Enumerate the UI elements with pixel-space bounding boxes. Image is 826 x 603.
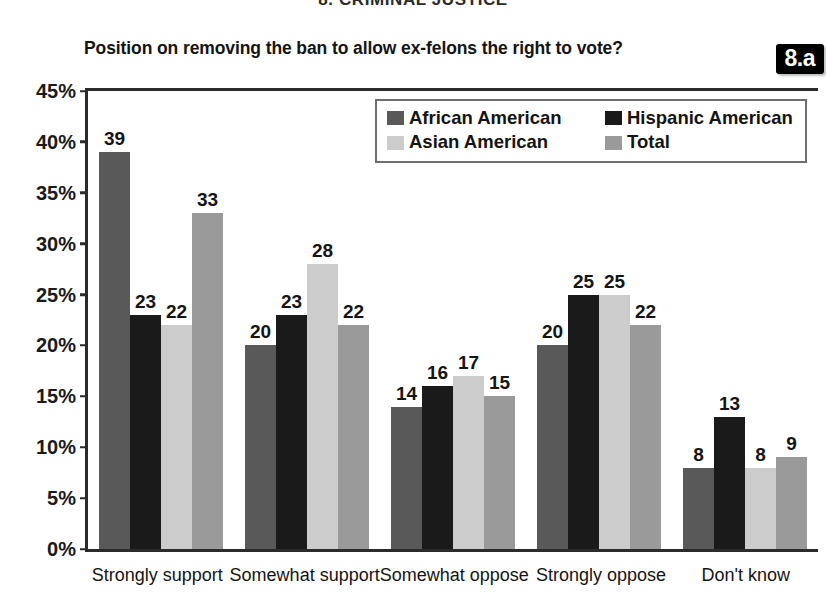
bar-value-label: 8	[755, 445, 766, 464]
y-axis-tick: 5%	[47, 487, 88, 510]
y-axis-tick: 35%	[36, 181, 88, 204]
bar[interactable]	[99, 152, 130, 549]
bar-value-label: 25	[604, 272, 625, 291]
y-axis-tick-mark	[80, 192, 88, 195]
bar[interactable]	[453, 376, 484, 549]
section-header: 8. CRIMINAL JUSTICE	[0, 0, 826, 10]
y-axis-tick-mark	[80, 242, 88, 245]
chart-page: 8. CRIMINAL JUSTICE Position on removing…	[0, 0, 826, 603]
bar[interactable]	[307, 264, 338, 549]
legend-label: African American	[409, 106, 562, 130]
bar-group: 20232822	[234, 91, 380, 549]
bar-column[interactable]: 23	[130, 91, 161, 549]
bar-value-label: 17	[458, 353, 479, 372]
y-axis-tick: 45%	[36, 80, 88, 103]
bar-value-label: 39	[104, 129, 125, 148]
bar-column[interactable]: 33	[192, 91, 223, 549]
y-axis-tick: 15%	[36, 385, 88, 408]
legend-label: Total	[627, 130, 670, 154]
bar-value-label: 22	[343, 302, 364, 321]
chart-title: Position on removing the ban to allow ex…	[84, 38, 623, 59]
bar[interactable]	[537, 345, 568, 549]
bar[interactable]	[391, 407, 422, 549]
legend-row: Asian American Total	[387, 130, 797, 154]
y-axis-tick: 0%	[47, 538, 88, 561]
bar-group: 39232233	[88, 91, 234, 549]
bar-value-label: 23	[281, 292, 302, 311]
legend-item-total: Total	[605, 130, 670, 154]
y-axis-tick-mark	[80, 293, 88, 296]
y-axis-tick: 20%	[36, 334, 88, 357]
y-axis-tick-mark	[80, 90, 88, 93]
y-axis-tick: 30%	[36, 232, 88, 255]
legend-swatch-icon	[605, 111, 622, 125]
bar-column[interactable]: 23	[276, 91, 307, 549]
bar-value-label: 25	[573, 272, 594, 291]
y-axis-tick-mark	[80, 395, 88, 398]
bar[interactable]	[276, 315, 307, 549]
bar[interactable]	[630, 325, 661, 549]
bar-value-label: 16	[427, 363, 448, 382]
bar[interactable]	[130, 315, 161, 549]
bar[interactable]	[714, 417, 745, 549]
bar[interactable]	[776, 457, 807, 549]
bar[interactable]	[599, 295, 630, 549]
bar-value-label: 13	[719, 394, 740, 413]
x-axis-label: Somewhat support	[230, 556, 380, 596]
x-axis-label: Strongly support	[85, 556, 230, 596]
bar-value-label: 14	[396, 384, 417, 403]
y-axis-tick: 25%	[36, 283, 88, 306]
bar[interactable]	[683, 468, 714, 549]
bar-value-label: 33	[197, 190, 218, 209]
y-axis-tick-mark	[80, 446, 88, 449]
bar-value-label: 28	[312, 241, 333, 260]
legend-item-african-american: African American	[387, 106, 605, 130]
bar-value-label: 22	[166, 302, 187, 321]
x-axis-label: Strongly oppose	[529, 556, 674, 596]
bar[interactable]	[745, 468, 776, 549]
bar-value-label: 20	[542, 322, 563, 341]
bar[interactable]	[161, 325, 192, 549]
bar-value-label: 20	[250, 322, 271, 341]
bar-value-label: 9	[786, 434, 797, 453]
x-axis-labels: Strongly supportSomewhat supportSomewhat…	[85, 556, 818, 596]
bar-value-label: 23	[135, 292, 156, 311]
y-axis-tick: 10%	[36, 436, 88, 459]
y-axis-tick-mark	[80, 497, 88, 500]
bar-value-label: 22	[635, 302, 656, 321]
legend-item-hispanic-american: Hispanic American	[605, 106, 793, 130]
legend-row: African American Hispanic American	[387, 106, 797, 130]
x-axis-label: Don't know	[673, 556, 818, 596]
chart-legend: African American Hispanic American Asian…	[375, 99, 807, 163]
bar-value-label: 8	[693, 445, 704, 464]
bar-column[interactable]: 28	[307, 91, 338, 549]
y-axis-tick-mark	[80, 548, 88, 551]
bar-value-label: 15	[489, 373, 510, 392]
legend-item-asian-american: Asian American	[387, 130, 605, 154]
legend-swatch-icon	[387, 111, 404, 125]
y-axis-tick-mark	[80, 344, 88, 347]
legend-swatch-icon	[605, 136, 622, 150]
legend-label: Hispanic American	[627, 106, 793, 130]
bar[interactable]	[484, 396, 515, 549]
bar[interactable]	[422, 386, 453, 549]
legend-label: Asian American	[409, 130, 548, 154]
bar[interactable]	[245, 345, 276, 549]
bar[interactable]	[568, 295, 599, 549]
bar-column[interactable]: 39	[99, 91, 130, 549]
y-axis-tick-mark	[80, 141, 88, 144]
figure-number-badge: 8.a	[776, 44, 824, 74]
bar[interactable]	[338, 325, 369, 549]
x-axis-label: Somewhat oppose	[380, 556, 529, 596]
legend-swatch-icon	[387, 136, 404, 150]
bar-column[interactable]: 20	[245, 91, 276, 549]
bar-column[interactable]: 22	[338, 91, 369, 549]
bar[interactable]	[192, 213, 223, 549]
y-axis-tick: 40%	[36, 130, 88, 153]
bar-column[interactable]: 22	[161, 91, 192, 549]
